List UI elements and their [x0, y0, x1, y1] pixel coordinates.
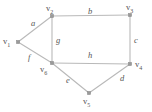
vertex-label-subscript: 6 [44, 70, 47, 76]
vertex-label-v5: v5 [83, 97, 90, 108]
edge-label-g: g [56, 36, 60, 45]
vertex-v5 [87, 91, 90, 94]
edge-label-e: e [66, 76, 70, 85]
edge-f [18, 42, 52, 63]
vertex-v4 [128, 62, 131, 65]
edge-label-h: h [88, 51, 92, 60]
edge-label-c: c [134, 36, 138, 45]
vertex-label-subscript: 1 [7, 42, 10, 48]
vertex-label-subscript: 3 [130, 8, 133, 14]
vertex-label-subscript: 5 [87, 102, 90, 108]
vertex-label-v6: v6 [40, 65, 47, 76]
graph-diagram: v1v2v3v4v5v6abcdefgh [0, 0, 152, 112]
vertex-label-subscript: 2 [50, 9, 53, 15]
vertex-v1 [16, 40, 19, 43]
edge-h [52, 63, 130, 64]
vertex-v6 [50, 61, 53, 64]
vertex-label-v4: v4 [135, 60, 142, 71]
vertex-label-subscript: 4 [139, 65, 142, 71]
vertex-label-v2: v2 [46, 4, 53, 15]
edge-label-a: a [31, 19, 35, 28]
vertex-label-v1: v1 [3, 37, 10, 48]
vertex-label-v3: v3 [126, 3, 133, 14]
edge-label-b: b [88, 7, 92, 16]
graph-canvas [0, 0, 152, 112]
vertex-v3 [128, 13, 131, 16]
edge-e [52, 63, 89, 93]
edge-label-f: f [28, 53, 30, 62]
vertex-v2 [50, 14, 53, 17]
edge-label-d: d [120, 74, 124, 83]
